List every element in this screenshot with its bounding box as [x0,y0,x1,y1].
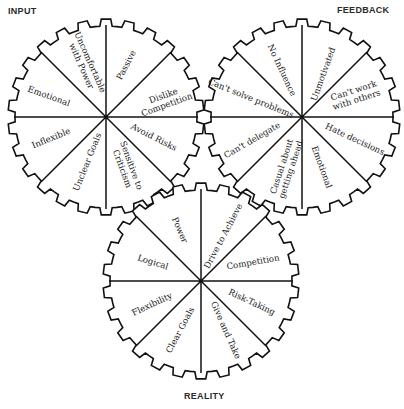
gear-reality: Drive to AchieveCompetitionRisk-TakingGi… [103,183,298,379]
gear-input: PassiveDislikeCompetitionAvoid RisksSens… [8,19,203,215]
gear-hub [300,115,304,119]
gear-hub [104,115,108,119]
input-title: INPUT [8,6,37,16]
feedback-title: FEEDBACK [337,5,389,15]
gears-canvas: PassiveDislikeCompetitionAvoid RisksSens… [0,0,404,409]
reality-title: REALITY [184,391,225,401]
gear-diagram: PassiveDislikeCompetitionAvoid RisksSens… [0,0,404,409]
gear-hub [199,279,203,283]
gear-feedback: UnmotivatedCan't workwith othersHate dec… [204,19,399,215]
